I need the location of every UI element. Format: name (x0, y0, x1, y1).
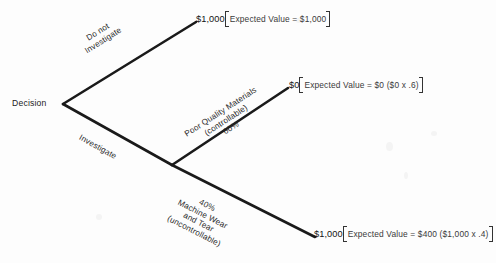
expected-value-text: Expected Value = $400 ($1,000 x .4) (348, 229, 489, 239)
expected-value-bracket: Expected Value = $0 ($0 x .6) (299, 80, 422, 90)
outcome-do-not-investigate: $1,000 Expected Value = $1,000 (196, 14, 330, 24)
outcome-machine-wear: $1,000 Expected Value = $400 ($1,000 x .… (314, 229, 493, 239)
decision-tree-diagram: Decision Do not Investigate Investigate … (0, 0, 496, 263)
payoff-value: $1,000 (196, 14, 225, 24)
branch-line-investigate (63, 104, 172, 165)
expected-value-text: Expected Value = $1,000 (230, 14, 327, 24)
payoff-value: $0 (289, 80, 299, 90)
expected-value-text: Expected Value = $0 ($0 x .6) (304, 80, 418, 90)
decision-node-label: Decision (12, 98, 47, 108)
expected-value-bracket: Expected Value = $400 ($1,000 x .4) (343, 229, 493, 239)
expected-value-bracket: Expected Value = $1,000 (225, 14, 331, 24)
outcome-poor-quality: $0 Expected Value = $0 ($0 x .6) (289, 80, 423, 90)
tree-branch-lines (0, 0, 496, 263)
payoff-value: $1,000 (314, 229, 343, 239)
